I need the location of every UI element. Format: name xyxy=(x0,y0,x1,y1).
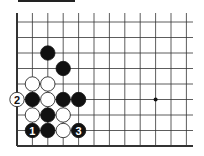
move-number-label: 1 xyxy=(29,125,35,137)
black-stone xyxy=(71,92,85,106)
white-stone xyxy=(25,108,39,122)
black-stone-3: 3 xyxy=(71,123,85,137)
move-number-label: 3 xyxy=(76,125,82,137)
black-stone xyxy=(41,108,55,122)
black-stone xyxy=(56,61,70,75)
star-point xyxy=(154,98,158,102)
black-stone xyxy=(25,92,39,106)
star-points xyxy=(154,98,158,102)
black-stone xyxy=(56,92,70,106)
move-number-label: 2 xyxy=(14,94,20,106)
white-stone-2: 2 xyxy=(10,92,24,106)
white-stone xyxy=(56,108,70,122)
white-stone xyxy=(41,92,55,106)
go-board: 213 xyxy=(0,0,204,156)
white-stone xyxy=(41,77,55,91)
black-stone xyxy=(41,46,55,60)
black-stone-1: 1 xyxy=(25,123,39,137)
white-stone xyxy=(25,77,39,91)
black-stone xyxy=(41,123,55,137)
white-stone xyxy=(56,123,70,137)
